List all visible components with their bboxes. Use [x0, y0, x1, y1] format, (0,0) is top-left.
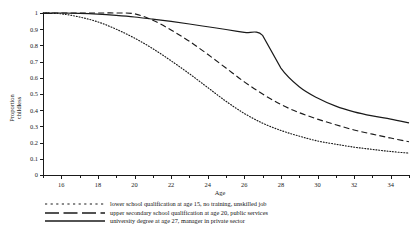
legend-item: upper secondary school qualification at … [44, 209, 414, 217]
y-tick-label: 0.3 [30, 123, 38, 130]
figure-childlessness-by-age: 00.10.20.30.40.50.60.70.80.9116182022242… [0, 0, 418, 242]
axes-group [43, 13, 409, 176]
legend-label-lower-school: lower school qualification at age 15, no… [106, 200, 267, 208]
y-tick-label: 0.4 [30, 107, 39, 114]
series-line-dotted [43, 13, 409, 153]
tick-labels-group: 00.10.20.30.40.50.60.70.80.9116182022242… [30, 9, 395, 187]
y-tick-label: 0.2 [30, 139, 38, 146]
ticks-group [40, 14, 410, 180]
x-tick-label: 24 [205, 181, 212, 188]
series-line-dashed [43, 13, 409, 142]
y-axis-title-line2: childless [15, 96, 22, 119]
x-tick-label: 32 [351, 181, 357, 188]
line-chart: 00.10.20.30.40.50.60.70.80.9116182022242… [0, 0, 418, 200]
y-tick-label: 1 [35, 9, 38, 16]
legend-swatch-dotted-icon [44, 200, 106, 208]
x-axis-title: Age [215, 189, 226, 196]
legend-item: university degree at age 27, manager in … [44, 217, 414, 225]
y-tick-label: 0.6 [30, 74, 38, 81]
y-tick-label: 0.7 [30, 58, 39, 65]
x-tick-label: 34 [388, 181, 395, 188]
y-tick-label: 0.9 [30, 26, 38, 33]
x-tick-label: 28 [278, 181, 284, 188]
series-group [43, 13, 409, 153]
y-tick-label: 0 [35, 171, 38, 178]
plot-area: 00.10.20.30.40.50.60.70.80.9116182022242… [0, 0, 418, 200]
y-tick-label: 0.1 [30, 155, 38, 162]
x-tick-label: 26 [241, 181, 247, 188]
axis-titles-group: AgeProportionchildless [8, 94, 225, 196]
y-tick-label: 0.5 [30, 90, 38, 97]
legend-swatch-solid-icon [44, 217, 106, 225]
legend-swatch-dashed-icon [44, 209, 106, 217]
x-tick-label: 16 [58, 181, 64, 188]
y-axis-title-line1: Proportion [8, 94, 15, 122]
x-tick-label: 30 [314, 181, 320, 188]
chart-legend: lower school qualification at age 15, no… [44, 200, 414, 226]
x-tick-label: 18 [95, 181, 101, 188]
y-tick-label: 0.8 [30, 42, 38, 49]
legend-item: lower school qualification at age 15, no… [44, 200, 414, 208]
legend-label-university: university degree at age 27, manager in … [106, 217, 245, 225]
x-tick-label: 20 [131, 181, 137, 188]
x-tick-label: 22 [168, 181, 174, 188]
legend-label-upper-secondary: upper secondary school qualification at … [106, 209, 268, 217]
